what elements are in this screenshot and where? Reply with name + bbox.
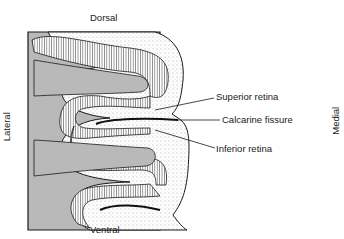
label-dorsal: Dorsal [90, 13, 117, 23]
label-medial: Medial [331, 107, 341, 135]
label-superior-retina: Superior retina [216, 92, 278, 102]
label-inferior-retina: Inferior retina [216, 144, 272, 154]
label-ventral: Ventral [90, 225, 120, 235]
label-calcarine-fissure: Calcarine fissure [222, 115, 293, 125]
label-lateral: Lateral [2, 112, 12, 141]
